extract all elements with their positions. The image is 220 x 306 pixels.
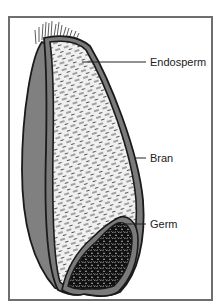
label-bran: Bran — [150, 152, 173, 164]
label-germ: Germ — [150, 218, 178, 230]
grain-kernel-diagram — [0, 0, 220, 306]
label-endosperm: Endosperm — [150, 56, 206, 68]
